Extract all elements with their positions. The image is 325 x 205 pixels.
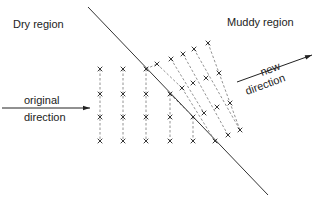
x-mark-icon [98,139,103,144]
x-mark-icon [180,86,185,91]
slanted-track [208,43,240,130]
arrowhead-icon [305,55,312,59]
x-mark-icon [121,139,126,144]
x-mark-icon [144,139,149,144]
x-mark-icon [204,76,209,81]
new-direction-arrow: new direction [237,55,312,97]
x-mark-icon [206,41,211,46]
slanted-track [170,94,193,117]
slanted-track [146,64,157,69]
original-direction-label-line2: direction [24,111,66,123]
slanted-track [183,54,228,135]
x-mark-icon [181,52,186,57]
slanted-track [182,88,215,141]
x-mark-icon [169,57,174,62]
x-mark-icon [217,71,222,76]
x-mark-icon [238,128,243,133]
x-mark-icon [226,133,231,138]
x-mark-icon [192,47,197,52]
original-direction-arrow: original direction [2,94,90,123]
slanted-track [171,59,204,113]
x-mark-icon [215,105,220,110]
refraction-diagram: Dry region Muddy region original directi… [0,0,325,205]
dry-region-label: Dry region [13,18,64,30]
x-mark-icon [191,81,196,86]
muddy-region-label: Muddy region [227,16,294,28]
original-direction-label-line1: original [24,94,59,106]
slanted-track [157,64,182,88]
x-mark-icon [202,111,207,116]
x-mark-icon [191,139,196,144]
slanted-track [194,49,240,130]
x-mark-icon [155,62,160,67]
region-boundary-line [88,7,268,195]
arrowhead-icon [83,106,90,110]
x-mark-icon [228,101,233,106]
